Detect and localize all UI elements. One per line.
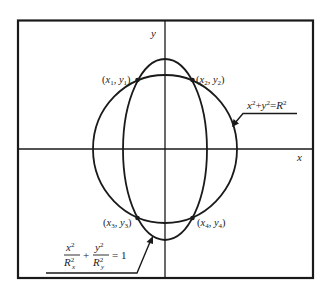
x-axis-label: x xyxy=(296,151,302,163)
svg-text:x2: x2 xyxy=(65,241,75,253)
intersection-point-2 xyxy=(190,78,195,83)
circle-leader-line xyxy=(235,114,297,124)
arrowhead-icon xyxy=(147,236,154,244)
svg-text:= 1: = 1 xyxy=(112,249,126,261)
svg-text:x: x xyxy=(71,263,76,271)
svg-text:+: + xyxy=(83,249,89,261)
intersection-point-4 xyxy=(190,216,195,221)
intersection-point-3 xyxy=(135,216,140,221)
ellipse-equation-label: x2 R2 x + y2 R2 y = 1 xyxy=(63,241,126,271)
point-label-3: (x3, y3) xyxy=(103,217,132,230)
intersection-point-1 xyxy=(135,78,140,83)
point-label-4: (x4, y4) xyxy=(197,217,226,230)
svg-text:y2: y2 xyxy=(94,241,104,253)
circle-equation-label: x2+y2=R2 xyxy=(246,99,287,111)
point-label-1: (x1, y1) xyxy=(102,74,131,87)
y-axis-label: y xyxy=(150,27,156,39)
circle-ellipse-intersection-diagram: x y (x1, y1) (x2, y2) (x3, y3) (x4, y4) … xyxy=(0,0,330,294)
svg-text:y: y xyxy=(100,263,105,271)
